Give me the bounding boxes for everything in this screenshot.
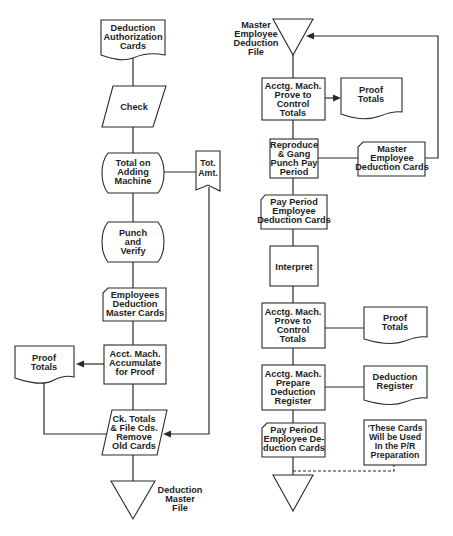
arrow-head [333, 95, 341, 102]
node-label: Interpret [275, 262, 312, 272]
node-deduction-register[interactable]: Deduction Register [364, 366, 427, 405]
node-label: Register [275, 396, 312, 406]
arrow-head [163, 431, 171, 438]
node-acctg-mach-prepare-register[interactable]: Acctg. Mach. Prepare Deduction Register [262, 365, 325, 410]
node-label: Master Cards [106, 308, 164, 318]
node-label: Verify [120, 246, 146, 256]
node-label: Totals [280, 334, 306, 344]
node-label: Check [120, 102, 148, 112]
node-pay-period-employee-deduction-cards[interactable]: Pay Period Employee Deduction Cards [257, 195, 331, 229]
connector-tape-l7 [168, 187, 209, 434]
node-label: Tot. [200, 158, 215, 168]
node-label: Totals [382, 322, 408, 332]
node-label: Amt. [198, 168, 218, 178]
node-label: Deduction Cards [257, 215, 331, 225]
connector-proof-l7 [44, 383, 110, 434]
node-label: Totals [280, 108, 306, 118]
node-ck-totals-file-cards[interactable]: Ck. Totals & File Cds. Remove Old Cards [102, 410, 167, 455]
node-acctg-mach-prove-control-1[interactable]: Acctg. Mach. Prove to Control Totals [262, 78, 325, 120]
node-pay-period-employee-deduction-cards-2[interactable]: Pay Period Employee De- duction Cards [262, 423, 325, 457]
node-tot-amt-tape[interactable]: Tot. Amt. [196, 151, 220, 191]
arrow-head [76, 361, 84, 368]
node-label: Machine [115, 176, 152, 186]
node-label: File [248, 47, 264, 57]
node-offline-storage-end[interactable] [273, 475, 313, 511]
node-interpret[interactable]: Interpret [270, 246, 318, 286]
node-label: Cards [120, 41, 146, 51]
note-text: Preparation [371, 450, 420, 460]
node-acct-mach-accumulate[interactable]: Acct. Mach. Accumulate for Proof [104, 345, 166, 384]
node-master-employee-deduction-cards[interactable]: Master Employee Deduction Cards [355, 142, 429, 176]
node-check[interactable]: Check [102, 86, 166, 127]
dashed-annotation-link [293, 465, 394, 471]
node-label: for Proof [116, 367, 156, 377]
node-label: duction Cards [263, 443, 325, 453]
arrow-head [306, 33, 314, 40]
node-deduction-authorization-cards[interactable]: Deduction Authorization Cards [101, 20, 165, 60]
node-reproduce-gang-punch[interactable]: Reproduce & Gang Punch Pay Period [270, 139, 318, 178]
node-employees-deduction-master-cards[interactable]: Employees Deduction Master Cards [103, 288, 166, 321]
node-acctg-mach-prove-control-2[interactable]: Acctg. Mach. Prove to Control Totals [262, 303, 325, 348]
node-label: Totals [31, 362, 57, 372]
node-label: Old Cards [112, 441, 156, 451]
node-proof-totals-left[interactable]: Proof Totals [15, 346, 74, 383]
note-these-cards-used-pr: ‘These Cards Will be Used In the P/R Pre… [364, 420, 426, 465]
flowchart-canvas: Deduction Authorization Cards Check Tota… [0, 0, 453, 536]
node-label: Period [280, 167, 309, 177]
node-master-employee-deduction-file[interactable]: Master Employee Deduction File [234, 19, 313, 57]
node-label: Register [377, 381, 414, 391]
node-proof-totals-right-2[interactable]: Proof Totals [364, 307, 427, 344]
node-proof-totals-right-1[interactable]: Proof Totals [341, 78, 402, 119]
node-label: File [172, 503, 188, 513]
node-deduction-master-file[interactable]: Deduction Master File [111, 481, 203, 519]
node-total-on-adding-machine[interactable]: Total on Adding Machine [102, 153, 164, 193]
node-label: Totals [358, 94, 384, 104]
node-label: Deduction Cards [355, 162, 429, 172]
node-punch-and-verify[interactable]: Punch and Verify [102, 222, 164, 262]
